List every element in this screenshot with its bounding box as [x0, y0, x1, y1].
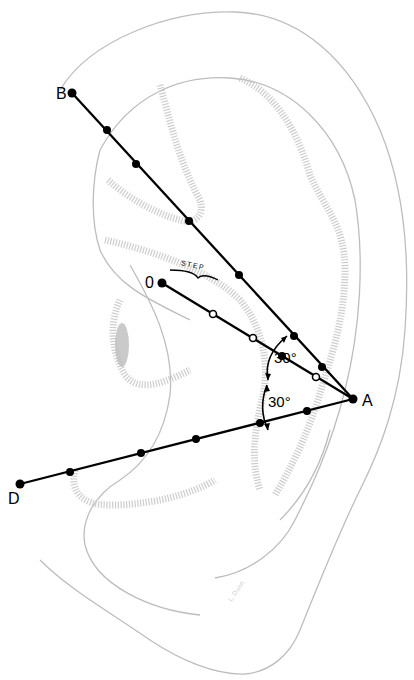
- point-dot: [103, 126, 111, 134]
- label-B: B: [56, 85, 67, 102]
- ear-lobe-outline: [84, 265, 200, 615]
- point-dot: [192, 435, 200, 443]
- point-O: [158, 279, 167, 288]
- diagram-canvas: 30° 30° STEP B A 0 D L. Dunn: [0, 0, 414, 680]
- open-point-dot: [313, 374, 320, 381]
- point-dot: [185, 217, 193, 225]
- ear-inner-helix-outline: [100, 78, 360, 578]
- crus-ridge-upper: [108, 85, 201, 221]
- label-O: 0: [145, 274, 154, 291]
- point-dot: [66, 468, 74, 476]
- point-B: [68, 89, 77, 98]
- angle-markers: 30° 30°: [263, 336, 297, 430]
- open-point-dot: [250, 335, 257, 342]
- open-point-dot: [210, 311, 217, 318]
- angle-label-lower: 30°: [268, 393, 291, 410]
- point-dot: [132, 160, 140, 168]
- point-dot: [137, 449, 145, 457]
- label-A: A: [362, 392, 373, 409]
- ear-canal-shadow: [115, 323, 129, 367]
- line-OA: [162, 283, 353, 399]
- point-dot: [235, 271, 243, 279]
- artist-signature: L. Dunn: [226, 579, 245, 602]
- point-dot: [303, 407, 311, 415]
- label-D: D: [8, 490, 20, 507]
- point-dot: [290, 332, 298, 340]
- ear-concha-outline: [93, 150, 190, 320]
- point-dot: [278, 352, 286, 360]
- lobe-ridge: [74, 470, 215, 505]
- ear-diagram: 30° 30° STEP B A 0 D L. Dunn: [0, 0, 414, 680]
- point-dot: [318, 363, 326, 371]
- ear-outer-outline: [40, 12, 407, 674]
- arrowhead-icon: [265, 373, 271, 380]
- point-D: [16, 480, 25, 489]
- point-A: [349, 395, 358, 404]
- ear-drawing: [40, 12, 407, 674]
- point-dot: [256, 419, 264, 427]
